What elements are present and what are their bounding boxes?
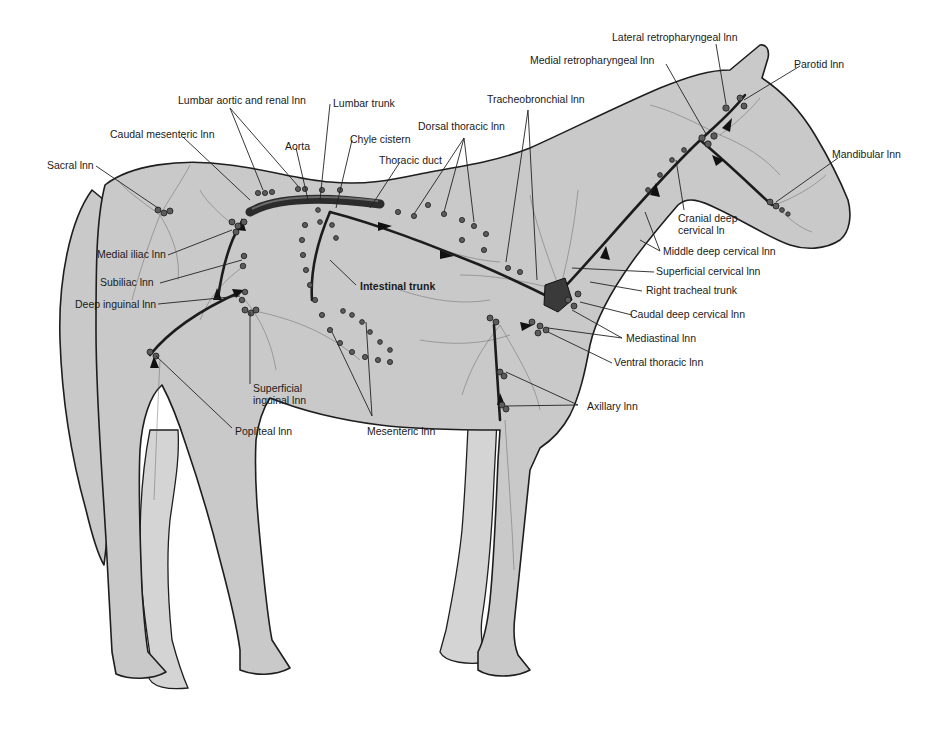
label-chyle-cistern: Chyle cistern bbox=[350, 133, 411, 145]
label-lumbar-aortic-renal: Lumbar aortic and renal lnn bbox=[178, 94, 306, 106]
label-superficial-inguinal-line1: Superficial bbox=[253, 382, 302, 394]
label-ventral-thoracic: Ventral thoracic lnn bbox=[614, 356, 703, 368]
label-aorta: Aorta bbox=[285, 140, 310, 152]
label-caudal-mesenteric: Caudal mesenteric lnn bbox=[110, 128, 215, 140]
label-thoracic-duct: Thoracic duct bbox=[379, 154, 442, 166]
label-mandibular: Mandibular lnn bbox=[832, 148, 901, 160]
label-tracheobronchial: Tracheobronchial lnn bbox=[487, 93, 585, 105]
label-superficial-cervical: Superficial cervical lnn bbox=[656, 265, 761, 277]
label-cranial-deep-cervical-line1: Cranial deep bbox=[678, 212, 738, 224]
label-mesenteric: Mesenteric lnn bbox=[367, 425, 435, 437]
label-medial-iliac: Medial iliac lnn bbox=[97, 248, 166, 260]
label-middle-deep-cervical: Middle deep cervical lnn bbox=[663, 245, 776, 257]
label-caudal-deep-cervical: Caudal deep cervical lnn bbox=[630, 308, 745, 320]
label-intestinal-trunk: Intestinal trunk bbox=[360, 280, 435, 292]
label-axillary: Axillary lnn bbox=[587, 400, 638, 412]
label-lumbar-trunk: Lumbar trunk bbox=[333, 97, 396, 109]
label-cranial-deep-cervical-line2: cervical ln bbox=[678, 224, 725, 236]
label-parotid: Parotid lnn bbox=[794, 58, 844, 70]
label-sacral: Sacral lnn bbox=[47, 159, 94, 171]
label-lateral-retropharyngeal: Lateral retropharyngeal lnn bbox=[612, 31, 738, 43]
horse-lymphatic-diagram: Lateral retropharyngeal lnn Medial retro… bbox=[0, 0, 950, 730]
label-deep-inguinal: Deep inguinal lnn bbox=[75, 298, 156, 310]
label-subiliac: Subiliac lnn bbox=[100, 276, 154, 288]
label-dorsal-thoracic: Dorsal thoracic lnn bbox=[418, 120, 505, 132]
label-medial-retropharyngeal: Medial retropharyngeal lnn bbox=[530, 54, 654, 66]
label-popliteal: Popliteal lnn bbox=[235, 425, 292, 437]
label-superficial-inguinal-line2: inguinal lnn bbox=[253, 394, 306, 406]
label-right-tracheal-trunk: Right tracheal trunk bbox=[646, 284, 738, 296]
label-mediastinal: Mediastinal lnn bbox=[626, 332, 696, 344]
